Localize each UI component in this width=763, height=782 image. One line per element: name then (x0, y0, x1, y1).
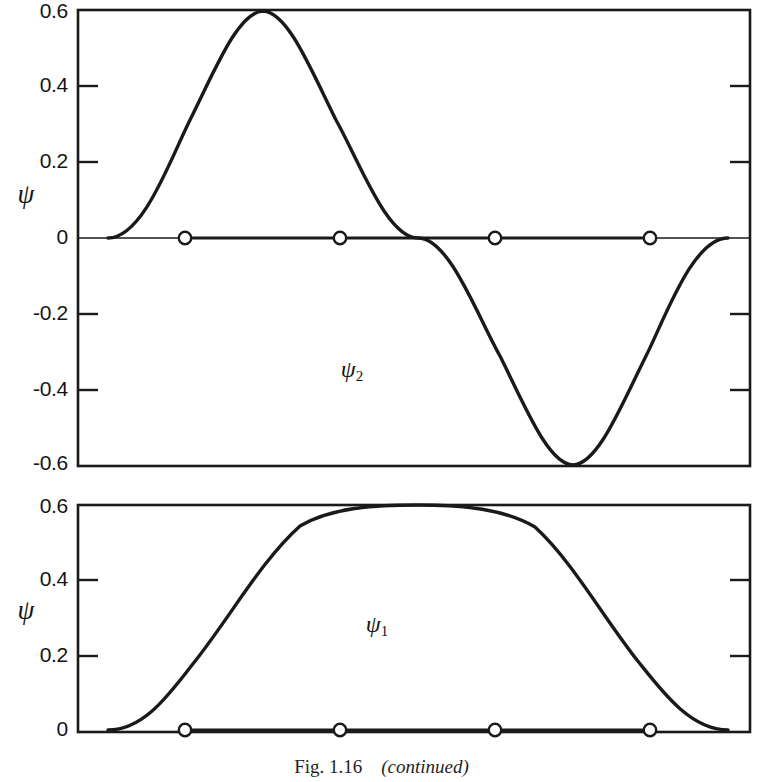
curve-label-psi1: ψ1 (366, 611, 388, 640)
curve-label-psi2-sub: 2 (356, 368, 364, 384)
ytick-label-psi2-0: 0.6 (40, 0, 68, 22)
ytick-label-psi2-1: 0.4 (40, 73, 69, 96)
lattice-marker (179, 724, 191, 736)
ytick-label-psi2-2: 0.2 (40, 149, 68, 172)
y-ticks-right-psi1 (730, 580, 750, 656)
ytick-label-psi1-1: 0.4 (40, 567, 69, 590)
ytick-label-psi2-4: -0.2 (33, 301, 68, 324)
ytick-label-psi2-6: -0.6 (33, 451, 68, 474)
panel-psi2: 0.6 0.4 0.2 0 -0.2 -0.4 -0.6 ψ (18, 0, 750, 474)
figure-caption: Fig. 1.16 (continued) (0, 756, 763, 778)
lattice-marker (334, 724, 346, 736)
ytick-label-psi2-5: -0.4 (33, 377, 69, 400)
curve-label-psi2-base: ψ (341, 356, 357, 382)
plot-frame-psi1 (78, 505, 750, 732)
lattice-marker (644, 724, 656, 736)
ytick-label-psi1-2: 0.2 (40, 643, 68, 666)
curve-label-psi2: ψ2 (341, 356, 363, 385)
ytick-label-psi1-3: 0 (57, 717, 68, 740)
curve-label-psi1-base: ψ (366, 611, 382, 637)
lattice-marker (644, 232, 656, 244)
y-axis-label-psi2: ψ (18, 179, 36, 209)
ytick-label-psi1-0: 0.6 (40, 494, 68, 517)
lattice-marker (489, 724, 501, 736)
caption-figure-number: Fig. 1.16 (294, 756, 362, 777)
curve-label-psi1-sub: 1 (381, 623, 389, 639)
ytick-label-psi2-3: 0 (57, 225, 68, 248)
wavefunction-figure: 0.6 0.4 0.2 0 -0.2 -0.4 -0.6 ψ (0, 0, 763, 782)
lattice-marker (334, 232, 346, 244)
curve-psi1 (108, 505, 728, 730)
lattice-marker (179, 232, 191, 244)
figure-container: 0.6 0.4 0.2 0 -0.2 -0.4 -0.6 ψ (0, 0, 763, 782)
y-ticks-left-psi1 (78, 580, 98, 656)
lattice-marker (489, 232, 501, 244)
caption-continued-note: (continued) (381, 756, 469, 777)
y-axis-label-psi1: ψ (18, 595, 36, 625)
panel-psi1: 0.6 0.4 0.2 0 ψ ψ1 (18, 494, 750, 740)
